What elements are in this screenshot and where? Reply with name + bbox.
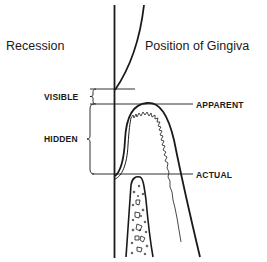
heading-recession: Recession xyxy=(6,39,64,53)
label-visible: VISIBLE xyxy=(44,92,79,102)
visible-brace xyxy=(90,89,96,104)
label-apparent: APPARENT xyxy=(196,100,244,110)
gingiva-inner-outline xyxy=(115,118,131,179)
hidden-brace xyxy=(87,104,94,174)
heading-position-of-gingiva: Position of Gingiva xyxy=(145,39,249,53)
label-actual: ACTUAL xyxy=(196,170,232,180)
crown-curve xyxy=(115,5,144,90)
label-hidden: HIDDEN xyxy=(44,134,78,144)
gingival-recession-diagram: Recession Position of Gingiva VISIBLE HI… xyxy=(0,0,267,262)
